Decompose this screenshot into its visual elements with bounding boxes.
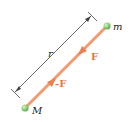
- mass-M-label: M: [31, 105, 43, 116]
- mass-m-label: m: [113, 21, 122, 32]
- diagram-canvas: m M F -F r: [0, 0, 131, 122]
- mass-m-sphere: [104, 23, 111, 30]
- force-F-label: F: [91, 51, 98, 62]
- force-negF-label: -F: [55, 78, 66, 89]
- mass-M-sphere: [22, 105, 29, 112]
- distance-dimension-line: [11, 12, 97, 98]
- force-line: [26, 27, 106, 107]
